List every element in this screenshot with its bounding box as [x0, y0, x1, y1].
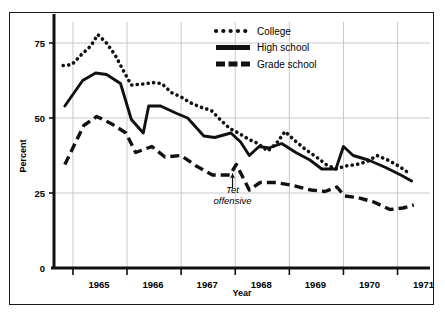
series-line-college — [63, 35, 409, 174]
legend-label: Grade school — [257, 59, 316, 70]
legend-item-college: College — [216, 26, 291, 37]
axis-ticks — [49, 43, 398, 275]
annotation-line-2: offensive — [214, 195, 252, 206]
x-tick-label: 1965 — [88, 279, 110, 290]
x-tick-label: 1971 — [413, 279, 435, 290]
y-tick-label: 75 — [34, 38, 45, 49]
x-tick-label: 1966 — [143, 279, 164, 290]
annotation-line-1: Tet — [226, 184, 239, 195]
y-tick-label: 0 — [40, 263, 45, 274]
chart-figure: 0255075 1965196619671968196919701971 Tet… — [0, 0, 445, 317]
legend-item-grade-school: Grade school — [216, 59, 316, 70]
x-tick-label: 1967 — [197, 279, 218, 290]
legend-label: High school — [257, 42, 309, 53]
tet-offensive-annotation: Tetoffensive — [214, 174, 252, 206]
y-tick-label: 25 — [34, 188, 45, 199]
chart-legend: CollegeHigh schoolGrade school — [216, 26, 316, 70]
x-tick-labels: 1965196619671968196919701971 — [88, 279, 434, 290]
legend-label: College — [257, 26, 291, 37]
y-axis-title: Percent — [18, 139, 28, 172]
y-tick-labels: 0255075 — [34, 38, 45, 274]
y-tick-label: 50 — [34, 113, 45, 124]
legend-item-high-school: High school — [216, 42, 309, 53]
line-chart-plot: 0255075 1965196619671968196919701971 Tet… — [0, 0, 445, 317]
x-tick-label: 1969 — [305, 279, 326, 290]
x-tick-label: 1968 — [251, 279, 272, 290]
x-axis-title: Year — [232, 288, 252, 298]
x-tick-label: 1970 — [359, 279, 380, 290]
